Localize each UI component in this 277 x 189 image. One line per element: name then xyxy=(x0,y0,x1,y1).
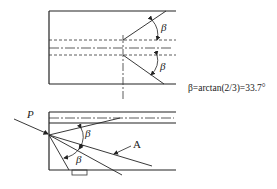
top-view: β β xyxy=(49,11,176,100)
beta-label-top-upper: β xyxy=(160,21,167,33)
support-bearing xyxy=(72,170,87,175)
top-view-diagonal-upper xyxy=(123,11,166,40)
angle-formula: β=arctan(2/3)=33.7° xyxy=(188,83,266,94)
diagram-canvas: β β β=arctan(2/3)=33.7° P β β A xyxy=(0,0,277,189)
load-label-p: P xyxy=(26,108,34,120)
pointer-label-a: A xyxy=(133,138,141,150)
pointer-arrow-a xyxy=(114,146,131,154)
angle-arc-upper xyxy=(152,20,158,40)
beta-label-side-lower: β xyxy=(75,153,82,165)
angle-arc-lower xyxy=(151,55,158,75)
beta-label-top-lower: β xyxy=(159,60,166,72)
side-view: P β β A xyxy=(14,108,176,175)
load-arrow-p xyxy=(14,119,48,134)
beta-label-side-upper: β xyxy=(84,127,91,139)
